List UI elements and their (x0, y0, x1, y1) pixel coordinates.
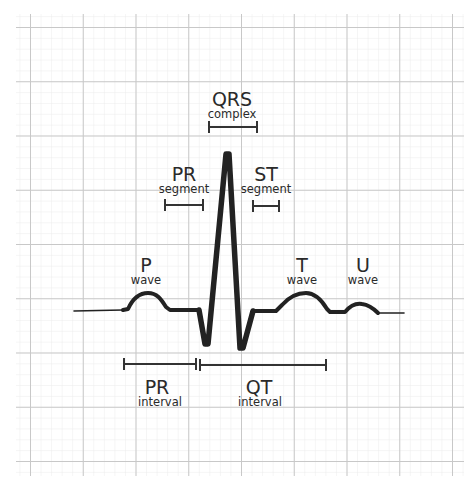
svg-text:complex: complex (208, 107, 257, 121)
svg-text:interval: interval (138, 395, 182, 409)
svg-text:wave: wave (287, 273, 317, 287)
svg-text:interval: interval (238, 395, 282, 409)
svg-text:segment: segment (159, 182, 210, 196)
svg-text:wave: wave (348, 273, 378, 287)
svg-text:wave: wave (131, 273, 161, 287)
svg-text:segment: segment (241, 182, 292, 196)
ecg-diagram: QRS complex PR segment ST segment P wave… (0, 0, 476, 493)
qrs-label: QRS complex (208, 88, 257, 121)
